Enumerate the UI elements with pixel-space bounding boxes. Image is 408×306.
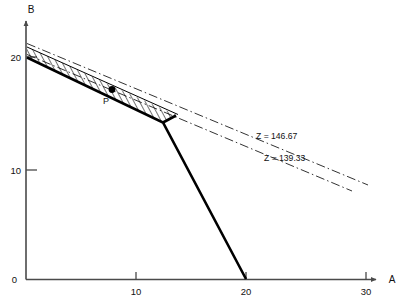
point-p-marker [109,86,116,93]
x-tick-label-10: 10 [131,286,142,297]
y-axis-label: B [28,4,35,15]
hatched-region [27,47,176,123]
iso-profit-line-upper [27,44,368,186]
constraint-line-bold [27,58,246,280]
x-axis-label: A [389,274,396,285]
x-tick-label-20: 20 [241,286,252,297]
chart-svg: 10 20 30 0 10 20 A B P Z = 146.67 Z = 13… [0,0,408,306]
y-tick-label-0: 0 [12,274,17,285]
axes-group [26,21,376,280]
z-lower-label: Z = 139.33 [264,153,306,163]
z-upper-label: Z = 146.67 [256,131,298,141]
y-tick-label-20: 20 [10,52,21,63]
x-tick-label-30: 30 [361,286,372,297]
y-tick-label-10: 10 [10,165,21,176]
y-axis-ticks [26,57,37,170]
lp-graph-figure: 10 20 30 0 10 20 A B P Z = 146.67 Z = 13… [0,0,408,306]
point-p-label: P [103,96,109,106]
x-axis-ticks [136,272,366,280]
